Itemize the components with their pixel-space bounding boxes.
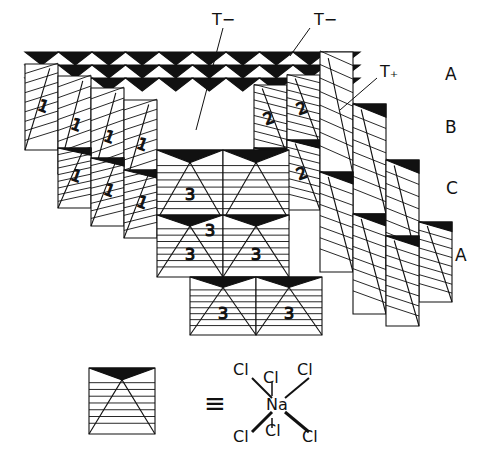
layer-label-a-bottom: A <box>455 245 467 265</box>
layer-label-b: B <box>445 117 457 137</box>
cl-atom-top-right: Cl <box>297 360 313 379</box>
layer-label-c: C <box>446 178 458 198</box>
equivalence-symbol: ≡ <box>204 388 226 418</box>
svg-text:3: 3 <box>185 185 195 204</box>
cl-atom-bottom-right: Cl <box>302 427 318 446</box>
cl-atom-bottom-mid: Cl <box>265 421 281 440</box>
svg-text:3: 3 <box>205 221 215 240</box>
na-atom: Na <box>266 395 288 414</box>
svg-text:3: 3 <box>218 304 228 323</box>
cl-atom-bottom-left: Cl <box>233 427 249 446</box>
octahedra-layer-diagram: 11111112222333333 <box>0 0 485 464</box>
layer-label-a-top: A <box>445 64 457 84</box>
cl-atom-top-left: Cl <box>233 360 249 379</box>
tetrahedral-site-label-t-minus-2: T− <box>314 10 337 29</box>
svg-text:3: 3 <box>185 245 195 264</box>
svg-text:3: 3 <box>284 304 294 323</box>
tetrahedral-site-label-t-plus: T₊ <box>380 62 398 81</box>
svg-text:3: 3 <box>251 245 261 264</box>
cl-atom-top-mid: Cl <box>263 368 279 387</box>
tetrahedral-site-label-t-minus-1: T− <box>212 10 235 29</box>
